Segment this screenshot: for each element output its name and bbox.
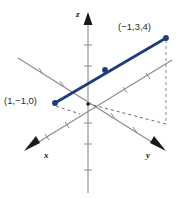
coordinate-figure: z x y (−1,3,4) (1,−1,0) [0,0,188,198]
origin-marker [86,102,89,105]
projection-dashed-line [89,104,166,124]
y-axis-arrowhead [150,136,166,151]
x-axis-label: x [43,150,49,160]
x-axis-arrowhead [24,136,40,151]
line-segment [55,38,166,103]
midpoint-dot [102,67,108,73]
left-endpoint-dot [52,100,58,106]
three-d-axes-plot: z x y (−1,3,4) (1,−1,0) [0,0,188,198]
blue-segment-group [52,35,169,106]
right-endpoint-label: (−1,3,4) [118,21,151,32]
z-axis-label: z [75,9,80,19]
short-projection-dashed-line [56,106,80,114]
x-tick [45,134,49,140]
y-axis-group [18,58,166,151]
dashed-projection-group [56,40,166,124]
x-axis-group [24,60,172,151]
left-endpoint-label: (1,−1,0) [4,95,37,106]
z-axis-arrowhead [84,12,93,25]
right-endpoint-dot [163,35,169,41]
y-axis-label: y [145,150,151,160]
